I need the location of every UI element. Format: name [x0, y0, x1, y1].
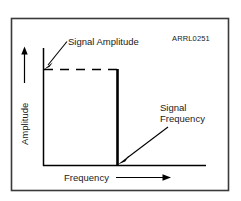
amplitude-callout-label: Signal Amplitude — [68, 36, 139, 47]
signal-spectrum-figure: Signal Amplitude Signal Frequency Amplit… — [0, 0, 241, 201]
figure-canvas: Signal Amplitude Signal Frequency Amplit… — [0, 0, 241, 201]
frequency-callout-label-line2: Frequency — [160, 113, 205, 124]
y-axis-label: Amplitude — [19, 103, 30, 145]
figure-code-label: ARRL0251 — [172, 34, 210, 43]
frequency-callout-label-line1: Signal — [160, 102, 186, 113]
x-axis-label: Frequency — [64, 172, 109, 183]
